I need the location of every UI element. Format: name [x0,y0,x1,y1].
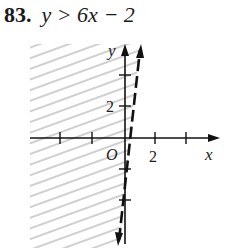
x-axis-arrow-icon [208,134,220,142]
graph: y x O 2 2 [0,0,228,252]
y-tick-label: 2 [106,98,114,115]
origin-label: O [106,146,118,163]
y-label: y [106,41,116,60]
x-tick-label: 2 [149,148,157,165]
x-label: x [204,145,213,164]
